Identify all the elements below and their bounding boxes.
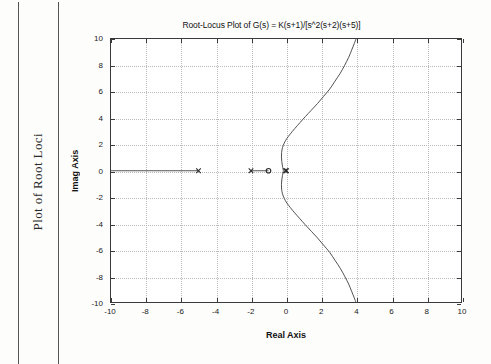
x-axis-tick-label: -10 xyxy=(104,307,116,316)
locus-branch xyxy=(281,39,356,171)
x-axis-tick xyxy=(463,298,464,302)
y-axis-tick xyxy=(457,172,461,173)
y-axis-tick xyxy=(457,251,461,252)
running-head-label: Plot of Root Loci xyxy=(30,133,46,230)
x-axis-tick-label: 4 xyxy=(354,307,358,316)
pole-marker-icon xyxy=(283,168,289,173)
y-axis-tick xyxy=(111,92,115,93)
y-axis-tick xyxy=(457,119,461,120)
x-axis-tick xyxy=(357,39,358,43)
y-axis-tick xyxy=(457,66,461,67)
y-axis-tick xyxy=(457,225,461,226)
y-axis-tick xyxy=(111,251,115,252)
x-axis-tick xyxy=(181,39,182,43)
y-axis-tick xyxy=(457,304,461,305)
y-axis-tick xyxy=(457,278,461,279)
x-axis-tick xyxy=(393,39,394,43)
x-axis-tick xyxy=(393,298,394,302)
x-axis-label: Real Axis xyxy=(110,330,462,340)
chart-title: Root-Locus Plot of G(s) = K(s+1)/[s^2(s+… xyxy=(60,20,483,30)
x-axis-tick-label: -2 xyxy=(247,307,254,316)
x-axis-tick xyxy=(252,298,253,302)
y-axis-tick xyxy=(111,66,115,67)
y-axis-tick-label: 2 xyxy=(60,140,103,149)
x-axis-tick xyxy=(146,39,147,43)
x-axis-tick xyxy=(181,298,182,302)
y-axis-tick-label: 6 xyxy=(60,87,103,96)
x-axis-tick xyxy=(146,298,147,302)
x-axis-tick xyxy=(287,298,288,302)
y-axis-tick xyxy=(111,278,115,279)
x-axis-tick xyxy=(287,39,288,43)
x-axis-tick xyxy=(217,39,218,43)
plot-area xyxy=(110,38,462,303)
y-axis-tick xyxy=(111,39,115,40)
x-axis-tick-label: 8 xyxy=(425,307,429,316)
y-axis-tick xyxy=(457,92,461,93)
y-axis-tick-label: -2 xyxy=(60,193,103,202)
y-axis-tick xyxy=(457,39,461,40)
y-axis-tick-label: 0 xyxy=(60,166,103,175)
y-axis-tick xyxy=(111,145,115,146)
x-axis-tick xyxy=(428,298,429,302)
y-axis-tick-label: 8 xyxy=(60,60,103,69)
x-axis-tick xyxy=(322,298,323,302)
y-axis-tick xyxy=(111,119,115,120)
x-axis-tick-label: 10 xyxy=(458,307,467,316)
x-axis-tick-label: 6 xyxy=(389,307,393,316)
x-axis-tick-label: -6 xyxy=(177,307,184,316)
y-axis-tick-label: 4 xyxy=(60,113,103,122)
x-axis-tick xyxy=(428,39,429,43)
x-axis-tick xyxy=(322,39,323,43)
locus-branch xyxy=(281,171,356,303)
x-axis-tick-label: -8 xyxy=(142,307,149,316)
y-axis-tick xyxy=(111,304,115,305)
x-axis-tick xyxy=(463,39,464,43)
root-locus-figure: Root-Locus Plot of G(s) = K(s+1)/[s^2(s+… xyxy=(60,0,491,364)
x-axis-tick xyxy=(357,298,358,302)
page-margin-rule-inner xyxy=(58,2,59,364)
y-axis-tick-label: -6 xyxy=(60,246,103,255)
root-locus-curves xyxy=(111,39,461,302)
x-axis-tick xyxy=(111,298,112,302)
y-axis-tick xyxy=(457,198,461,199)
x-axis-tick xyxy=(252,39,253,43)
x-axis-tick-label: 2 xyxy=(319,307,323,316)
y-axis-tick xyxy=(111,198,115,199)
y-axis-tick-label: -8 xyxy=(60,272,103,281)
y-axis-tick-label: -4 xyxy=(60,219,103,228)
y-axis-tick-label: 10 xyxy=(60,34,103,43)
y-axis-tick xyxy=(111,225,115,226)
running-head: Plot of Root Loci xyxy=(18,0,58,364)
y-axis-tick xyxy=(457,145,461,146)
y-axis-tick xyxy=(111,172,115,173)
x-axis-tick-label: -4 xyxy=(212,307,219,316)
scanned-page: Plot of Root Loci Root-Locus Plot of G(s… xyxy=(0,0,491,364)
x-axis-tick-label: 0 xyxy=(284,307,288,316)
x-axis-tick xyxy=(217,298,218,302)
y-axis-tick-label: -10 xyxy=(60,299,103,308)
